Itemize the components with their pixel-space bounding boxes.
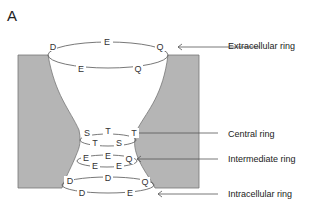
svg-text:E: E xyxy=(78,64,84,74)
svg-text:Q: Q xyxy=(156,42,163,52)
svg-text:T: T xyxy=(131,128,137,138)
svg-text:D: D xyxy=(105,173,112,183)
svg-text:D: D xyxy=(79,188,86,198)
label-central-ring: Central ring xyxy=(228,129,275,139)
svg-text:S: S xyxy=(116,138,122,148)
label-extracellular-ring: Extracellular ring xyxy=(228,41,295,51)
svg-text:E: E xyxy=(83,153,89,163)
membrane-left xyxy=(18,55,80,188)
svg-text:E: E xyxy=(127,188,133,198)
svg-text:D: D xyxy=(67,176,74,186)
membrane-right xyxy=(135,55,199,188)
svg-text:D: D xyxy=(50,42,57,52)
svg-text:Q: Q xyxy=(141,177,148,187)
svg-text:S: S xyxy=(84,128,90,138)
svg-text:E: E xyxy=(92,161,98,171)
svg-text:T: T xyxy=(105,126,111,136)
svg-text:E: E xyxy=(116,161,122,171)
label-intermediate-ring: Intermediate ring xyxy=(228,154,296,164)
svg-text:Q: Q xyxy=(134,64,141,74)
svg-text:T: T xyxy=(92,138,98,148)
svg-text:E: E xyxy=(105,151,111,161)
label-intracellular-ring: Intracellular ring xyxy=(228,189,292,199)
svg-text:Q: Q xyxy=(125,154,132,164)
channel-diagram: E D Q E Q S T T T S E E Q E E D D Q D E xyxy=(0,0,322,213)
svg-text:E: E xyxy=(104,37,110,47)
